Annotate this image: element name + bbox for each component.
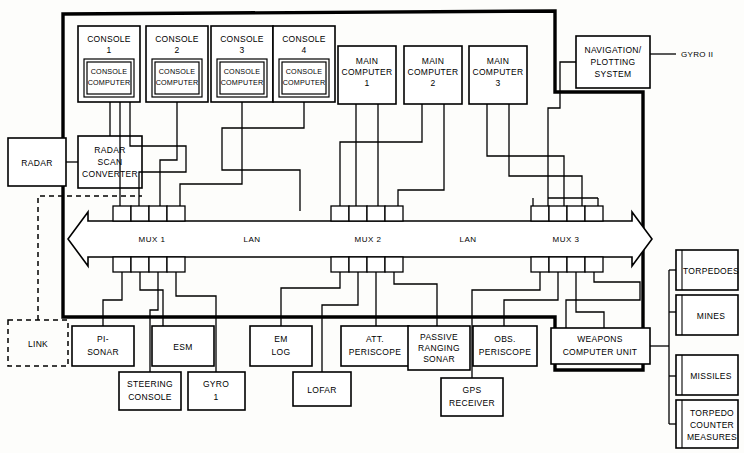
obs-periscope-box[interactable] — [473, 326, 537, 366]
console-1-computer-line2: COMPUTER — [88, 78, 131, 87]
mux2-top-port-3[interactable] — [367, 206, 385, 221]
console-4-computer-line1: CONSOLE — [286, 67, 323, 76]
main-computer-3-line1: MAIN — [487, 56, 509, 66]
effector-torpedoes-group: TORPEDOES — [676, 250, 739, 290]
weapons-unit-line2: COMPUTER UNIT — [563, 347, 638, 357]
main-computer-2-line1: MAIN — [422, 56, 444, 66]
lan-bus-group: MUX 1 LAN MUX 2 LAN MUX 3 — [68, 206, 652, 272]
em-log-box[interactable] — [250, 326, 312, 366]
console-3-computer-line1: CONSOLE — [224, 67, 261, 76]
diagram-svg: CONSOLE 1 CONSOLE COMPUTER CONSOLE 2 CON… — [0, 0, 744, 453]
console-4-computer-line2: COMPUTER — [283, 78, 326, 87]
mux2-bottom-port-1[interactable] — [331, 257, 349, 272]
radar-group: RADAR RADAR SCAN CONVERTER — [8, 102, 142, 188]
em-log-line1: EM — [274, 334, 287, 344]
mux3-bottom-port-1[interactable] — [531, 257, 549, 272]
console-1-computer-line1: CONSOLE — [91, 67, 128, 76]
mux3-top-port-4[interactable] — [585, 206, 603, 221]
mux1-top-port-1[interactable] — [113, 206, 131, 221]
console-2-computer-line1: CONSOLE — [159, 67, 196, 76]
mux-2-label: MUX 2 — [355, 235, 382, 244]
steering-console-box[interactable] — [119, 372, 181, 410]
passive-sonar-line2: RANGING — [418, 343, 460, 353]
mines-line1: MINES — [697, 311, 725, 321]
uplink-wires-top — [120, 102, 598, 211]
console-2-computer-line2: COMPUTER — [156, 78, 199, 87]
gyro-1-line2: 1 — [213, 392, 218, 402]
mux1-top-port-4[interactable] — [167, 206, 185, 221]
gps-receiver-box[interactable] — [441, 378, 503, 416]
main-computer-2-line2: COMPUTER — [407, 67, 458, 77]
steering-console-line2: CONSOLE — [128, 392, 172, 402]
missiles-line1: MISSILES — [690, 371, 732, 381]
console-3-label-line2: 3 — [239, 45, 244, 55]
effector-missiles-group: MISSILES — [676, 355, 738, 395]
mux3-bottom-port-4[interactable] — [585, 257, 603, 272]
navigation-to-bus-wire — [548, 62, 576, 209]
console-3-computer-line2: COMPUTER — [221, 78, 264, 87]
mux-1-label: MUX 1 — [139, 235, 166, 244]
obs-periscope-line2: PERISCOPE — [479, 347, 531, 357]
weapons-computer-group: WEAPONS COMPUTER UNIT — [551, 270, 681, 424]
mux3-top-port-3[interactable] — [567, 206, 585, 221]
mux2-bottom-port-3[interactable] — [367, 257, 385, 272]
mux1-bottom-port-2[interactable] — [131, 257, 149, 272]
mux1-bottom-port-3[interactable] — [149, 257, 167, 272]
mux1-bottom-port-1[interactable] — [113, 257, 131, 272]
console-4-label-line2: 4 — [301, 45, 306, 55]
gyro-1-line1: GYRO — [203, 379, 229, 389]
em-log-line2: LOG — [272, 347, 291, 357]
console-1-label-line1: CONSOLE — [87, 34, 131, 44]
main-computer-group-2: MAIN COMPUTER 2 — [404, 46, 462, 104]
pi-sonar-box[interactable] — [72, 326, 134, 366]
gyro-1-box[interactable] — [188, 372, 245, 410]
mux2-top-port-4[interactable] — [385, 206, 403, 221]
weapons-unit-line1: WEAPONS — [577, 334, 623, 344]
tcm-line2: COUNTER — [690, 420, 734, 430]
console-4-label-line1: CONSOLE — [282, 34, 326, 44]
navigation-line2: PLOTTING — [591, 57, 636, 67]
link-label: LINK — [28, 339, 48, 349]
effector-torpedo-counter-measures-group: TORPEDO COUNTER MEASURES — [676, 400, 738, 448]
obs-periscope-line1: OBS. — [494, 334, 516, 344]
mux1-top-port-3[interactable] — [149, 206, 167, 221]
tcm-line1: TORPEDO — [690, 408, 734, 418]
mux3-bottom-port-2[interactable] — [549, 257, 567, 272]
passive-sonar-line1: PASSIVE — [420, 332, 458, 342]
mux3-top-port-2[interactable] — [549, 206, 567, 221]
main-computer-1-line1: MAIN — [356, 56, 378, 66]
att-periscope-line1: ATT. — [366, 334, 384, 344]
mux1-top-port-2[interactable] — [131, 206, 149, 221]
sensor-row2-group: STEERING CONSOLE GYRO 1 LOFAR GPS RECEIV… — [119, 372, 503, 416]
pi-sonar-line1: PI- — [97, 334, 109, 344]
lan-label-right: LAN — [459, 235, 476, 244]
console-1-label-line2: 1 — [106, 45, 111, 55]
main-computer-1-line2: COMPUTER — [341, 67, 392, 77]
att-periscope-line2: PERISCOPE — [349, 347, 401, 357]
att-periscope-box[interactable] — [341, 326, 409, 366]
mux2-top-port-2[interactable] — [349, 206, 367, 221]
wire-maincomp3b-mux3p3 — [509, 104, 582, 211]
radar-converter-line3: CONVERTER — [82, 169, 138, 179]
sensor-row1-group: PI- SONAR ESM EM LOG ATT. PERISCOPE PASS… — [72, 326, 537, 370]
console-2-label-line1: CONSOLE — [155, 34, 199, 44]
console-3-label-line1: CONSOLE — [220, 34, 264, 44]
radar-converter-line1: RADAR — [94, 145, 125, 155]
wire-mux3p4-weapons-b — [566, 272, 640, 328]
mux2-top-port-1[interactable] — [331, 206, 349, 221]
mux1-bottom-port-4[interactable] — [167, 257, 185, 272]
lofar-line1: LOFAR — [307, 385, 336, 395]
navigation-line3: SYSTEM — [595, 69, 632, 79]
gps-receiver-line1: GPS — [463, 385, 482, 395]
tcm-line3: MEASURES — [687, 432, 737, 442]
navigation-plotting-group: NAVIGATION/ PLOTTING SYSTEM GYRO II — [548, 36, 713, 209]
mux2-bottom-port-2[interactable] — [349, 257, 367, 272]
pi-sonar-line2: SONAR — [87, 347, 119, 357]
mux3-bottom-port-3[interactable] — [567, 257, 585, 272]
mux2-bottom-port-4[interactable] — [385, 257, 403, 272]
radar-converter-line2: SCAN — [98, 157, 123, 167]
main-computer-1-line3: 1 — [364, 78, 369, 88]
gyro-ii-label: GYRO II — [681, 50, 713, 59]
main-computer-3-line3: 3 — [495, 78, 500, 88]
mux3-top-port-1[interactable] — [531, 206, 549, 221]
